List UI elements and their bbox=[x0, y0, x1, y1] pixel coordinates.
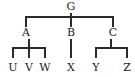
node-label-a: A bbox=[22, 27, 30, 38]
node-label-x: X bbox=[67, 62, 75, 73]
node-label-c: C bbox=[109, 27, 117, 38]
node-label-g: G bbox=[67, 1, 76, 12]
node-label-y: Y bbox=[92, 62, 99, 73]
node-label-v: V bbox=[25, 62, 33, 73]
node-label-w: W bbox=[39, 62, 50, 73]
tree-diagram: G A B C U V W X Y Z bbox=[0, 0, 135, 77]
node-label-u: U bbox=[8, 62, 17, 73]
node-label-z: Z bbox=[123, 62, 131, 73]
node-label-b: B bbox=[67, 27, 75, 38]
